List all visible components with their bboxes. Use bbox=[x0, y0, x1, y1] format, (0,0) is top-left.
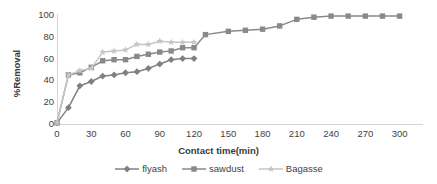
y-axis-title-label: %Removal bbox=[12, 49, 23, 96]
x-tick-label: 270 bbox=[350, 128, 380, 140]
legend-label: flyash bbox=[142, 163, 167, 174]
y-tick-label: 60 bbox=[28, 54, 54, 64]
x-tick-label: 300 bbox=[385, 128, 415, 140]
x-tick-label: 180 bbox=[248, 128, 278, 140]
y-axis-tick-labels: 020406080100 bbox=[26, 0, 54, 184]
legend-marker-star-icon bbox=[258, 164, 284, 174]
x-axis-title: Contact time(min) bbox=[0, 145, 437, 156]
series-svg bbox=[57, 15, 411, 124]
series-flyash bbox=[54, 55, 198, 126]
x-tick-label: 60 bbox=[111, 128, 141, 140]
legend-marker-diamond-icon bbox=[114, 164, 140, 174]
x-tick-label: 150 bbox=[213, 128, 243, 140]
series-sawdust bbox=[54, 13, 402, 125]
x-tick-label: 120 bbox=[179, 128, 209, 140]
legend-marker-square-icon bbox=[181, 164, 207, 174]
legend-item-Bagasse[interactable]: Bagasse bbox=[258, 163, 323, 174]
x-tick-label: 210 bbox=[282, 128, 312, 140]
x-tick-label: 30 bbox=[76, 128, 106, 140]
y-tick-label: 80 bbox=[28, 32, 54, 42]
x-tick-label: 240 bbox=[316, 128, 346, 140]
y-axis-title: %Removal bbox=[6, 28, 28, 118]
x-tick-label: 90 bbox=[145, 128, 175, 140]
chart-container: %Removal 020406080100 030609012015018021… bbox=[0, 0, 437, 184]
y-tick-label: 40 bbox=[28, 75, 54, 85]
legend-item-flyash[interactable]: flyash bbox=[114, 163, 167, 174]
series-Bagasse bbox=[54, 38, 198, 126]
legend-label: Bagasse bbox=[286, 163, 323, 174]
y-tick-label: 100 bbox=[28, 10, 54, 20]
x-axis-line bbox=[57, 124, 423, 125]
legend-item-sawdust[interactable]: sawdust bbox=[181, 163, 244, 174]
y-tick-label: 20 bbox=[28, 97, 54, 107]
plot-area bbox=[57, 15, 411, 124]
x-axis-tick-labels: 0306090120150180210240270300 bbox=[0, 128, 437, 142]
chart-legend: flyashsawdustBagasse bbox=[0, 163, 437, 174]
legend-label: sawdust bbox=[209, 163, 244, 174]
x-tick-label: 0 bbox=[42, 128, 72, 140]
